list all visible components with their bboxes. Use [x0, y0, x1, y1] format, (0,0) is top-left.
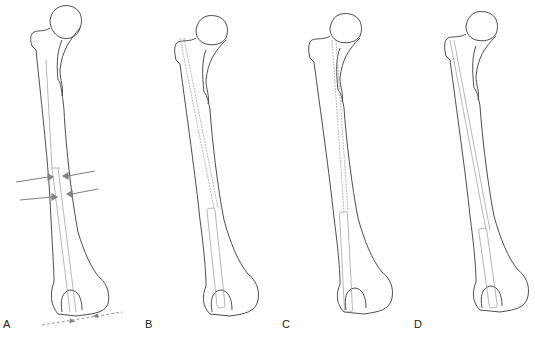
- panel-b: B: [140, 0, 280, 341]
- panel-d: D: [408, 0, 535, 341]
- panel-label-d: D: [414, 318, 422, 330]
- panel-c: C: [278, 0, 418, 341]
- panel-label-c: C: [282, 318, 290, 330]
- femur-drawing-a: [0, 0, 140, 341]
- femur-drawing-d: [408, 0, 535, 341]
- femur-drawing-c: [278, 0, 418, 341]
- panel-label-b: B: [145, 318, 152, 330]
- panel-a: A: [0, 0, 140, 341]
- panel-label-a: A: [3, 318, 10, 330]
- femur-drawing-b: [140, 0, 280, 341]
